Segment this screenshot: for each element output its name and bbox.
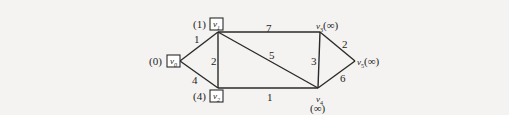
node-v1-distance: (1) [193, 19, 206, 30]
weight-v3-v4: 3 [311, 56, 317, 67]
weight-v2-v4: 1 [267, 92, 273, 103]
weight-v1-v4: 5 [269, 50, 275, 61]
weight-v0-v2: 4 [192, 75, 198, 86]
node-v0-label: v0 [167, 55, 180, 67]
node-v1-label: v1 [210, 18, 223, 30]
edge-v3-v5 [320, 32, 355, 61]
weight-v1-v2: 2 [211, 56, 217, 67]
graph-edges [0, 0, 509, 115]
node-v5-label: v5(∞) [357, 56, 379, 72]
node-v2-label: v2 [210, 90, 223, 102]
weight-v1-v3: 7 [266, 23, 272, 34]
node-v2-distance: (4) [193, 91, 206, 102]
weight-v3-v5: 2 [342, 39, 348, 50]
weight-v4-v5: 6 [340, 73, 346, 84]
node-v3-label: v3(∞) [316, 20, 338, 36]
edge-v3-v4 [318, 32, 320, 88]
node-v4-distance: (∞) [310, 103, 325, 114]
edge-v1-v4 [218, 32, 318, 88]
edge-v4-v5 [318, 61, 355, 88]
node-v0-distance: (0) [149, 56, 162, 67]
weight-v0-v1: 1 [194, 34, 200, 45]
